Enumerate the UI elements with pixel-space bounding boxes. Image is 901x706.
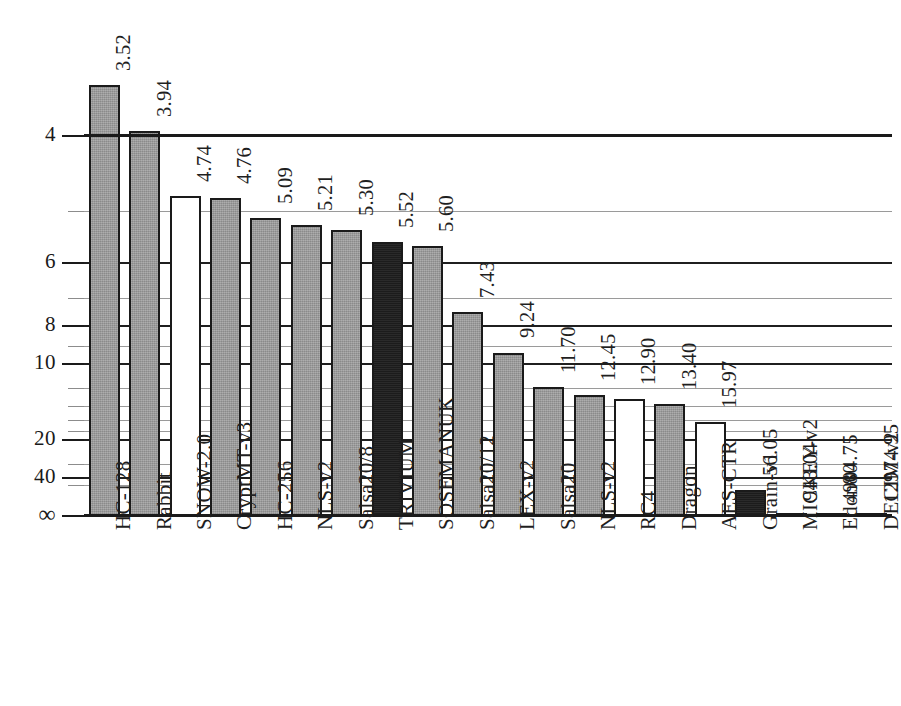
category-label-aes-ctr: AES-CTR bbox=[719, 440, 740, 530]
y-axis-label-40: 40 bbox=[0, 466, 56, 487]
category-label-nls-v2: NLS-v2 bbox=[598, 461, 619, 530]
gridline-major-10 bbox=[84, 363, 892, 365]
bar-rabbit bbox=[129, 131, 160, 517]
value-label-nls-v2: 12.45 bbox=[598, 333, 619, 381]
value-label-lex-v2: 9.24 bbox=[517, 301, 538, 338]
category-label-hc-128: HC-128 bbox=[113, 461, 134, 530]
y-tick-minor-7 bbox=[68, 298, 84, 299]
y-tick-10 bbox=[62, 363, 84, 365]
gridline-minor-9 bbox=[84, 346, 892, 347]
category-label-salsa20-12: Salsa20/12 bbox=[477, 435, 498, 530]
category-label-trivium: TRIVIUM bbox=[396, 438, 417, 530]
gridline-minor-16 bbox=[84, 420, 892, 421]
category-label-salsa20: Salsa20 bbox=[558, 463, 579, 530]
y-tick-minor-50 bbox=[68, 485, 84, 486]
y-tick-8 bbox=[62, 325, 84, 327]
category-label-grain-v1: Grain-v1 bbox=[760, 452, 781, 530]
y-tick-minor-16 bbox=[68, 420, 84, 421]
y-tick-minor-18 bbox=[68, 431, 84, 432]
value-label-hc-256: 5.09 bbox=[275, 167, 296, 204]
gridline-minor-12 bbox=[84, 388, 892, 389]
y-axis-label-20: 20 bbox=[0, 428, 56, 449]
category-label-salsa20-8: Salsa20/8 bbox=[356, 446, 377, 530]
value-label-cryptmt-v3: 4.76 bbox=[234, 147, 255, 184]
value-label-hc-128: 3.52 bbox=[113, 34, 134, 71]
category-label-lex-v2: LEX-v2 bbox=[517, 459, 538, 530]
gridline-minor-5 bbox=[84, 211, 892, 212]
gridline-minor-14 bbox=[84, 406, 892, 407]
y-tick-minor-9 bbox=[68, 346, 84, 347]
category-label-rabbit: Rabbit bbox=[154, 472, 175, 530]
value-label-aes-ctr: 15.97 bbox=[719, 360, 740, 408]
axis-top-line bbox=[84, 134, 892, 137]
value-label-sosemanuk: 5.60 bbox=[436, 194, 457, 231]
y-axis-label-4: 4 bbox=[0, 124, 56, 145]
y-axis-label-10: 10 bbox=[0, 352, 56, 373]
y-tick-4 bbox=[62, 135, 84, 137]
value-label-salsa20-8: 5.30 bbox=[356, 179, 377, 216]
y-tick-20 bbox=[62, 439, 84, 441]
category-label-sosemanuk: SOSEMANUK bbox=[436, 397, 457, 530]
gridline-major-8 bbox=[84, 325, 892, 327]
y-tick-40 bbox=[62, 477, 84, 479]
category-label-dragon: Dragon bbox=[679, 465, 700, 530]
category-label-rc4: RC4 bbox=[638, 491, 659, 530]
category-label-decim-v2: DECIM-v2 bbox=[881, 432, 901, 530]
value-label-rabbit: 3.94 bbox=[154, 80, 175, 117]
y-tick-minor-14 bbox=[68, 406, 84, 407]
value-label-trivium: 5.52 bbox=[396, 191, 417, 228]
y-tick-∞ bbox=[62, 515, 84, 517]
value-label-nls-v2: 5.21 bbox=[315, 174, 336, 211]
bar-hc-128 bbox=[89, 85, 120, 517]
y-tick-minor-12 bbox=[68, 388, 84, 389]
y-tick-minor-5 bbox=[68, 211, 84, 212]
y-tick-6 bbox=[62, 262, 84, 264]
value-label-rc4: 12.90 bbox=[638, 338, 659, 386]
y-axis-label-∞: ∞ bbox=[0, 504, 56, 525]
y-tick-minor-30 bbox=[68, 464, 84, 465]
value-label-salsa20: 11.70 bbox=[558, 326, 579, 373]
category-label-cryptmt-v3: CryptMT-v3 bbox=[234, 422, 255, 530]
category-label-edon80: Edon80 bbox=[840, 463, 861, 530]
value-label-salsa20-12: 7.43 bbox=[477, 261, 498, 298]
value-label-dragon: 13.40 bbox=[679, 342, 700, 390]
value-label-snow-2-0: 4.74 bbox=[194, 145, 215, 182]
category-label-nls-v2: NLS-v2 bbox=[315, 461, 336, 530]
category-label-snow-2-0: SNOW-2.0 bbox=[194, 434, 215, 530]
y-axis-label-8: 8 bbox=[0, 314, 56, 335]
category-label-hc-256: HC-256 bbox=[275, 461, 296, 530]
y-axis-label-6: 6 bbox=[0, 251, 56, 272]
bar-chart: 468102040∞ 3.523.944.744.765.095.215.305… bbox=[0, 0, 901, 706]
category-label-mickey-v2: MICKEY-v2 bbox=[800, 419, 821, 530]
